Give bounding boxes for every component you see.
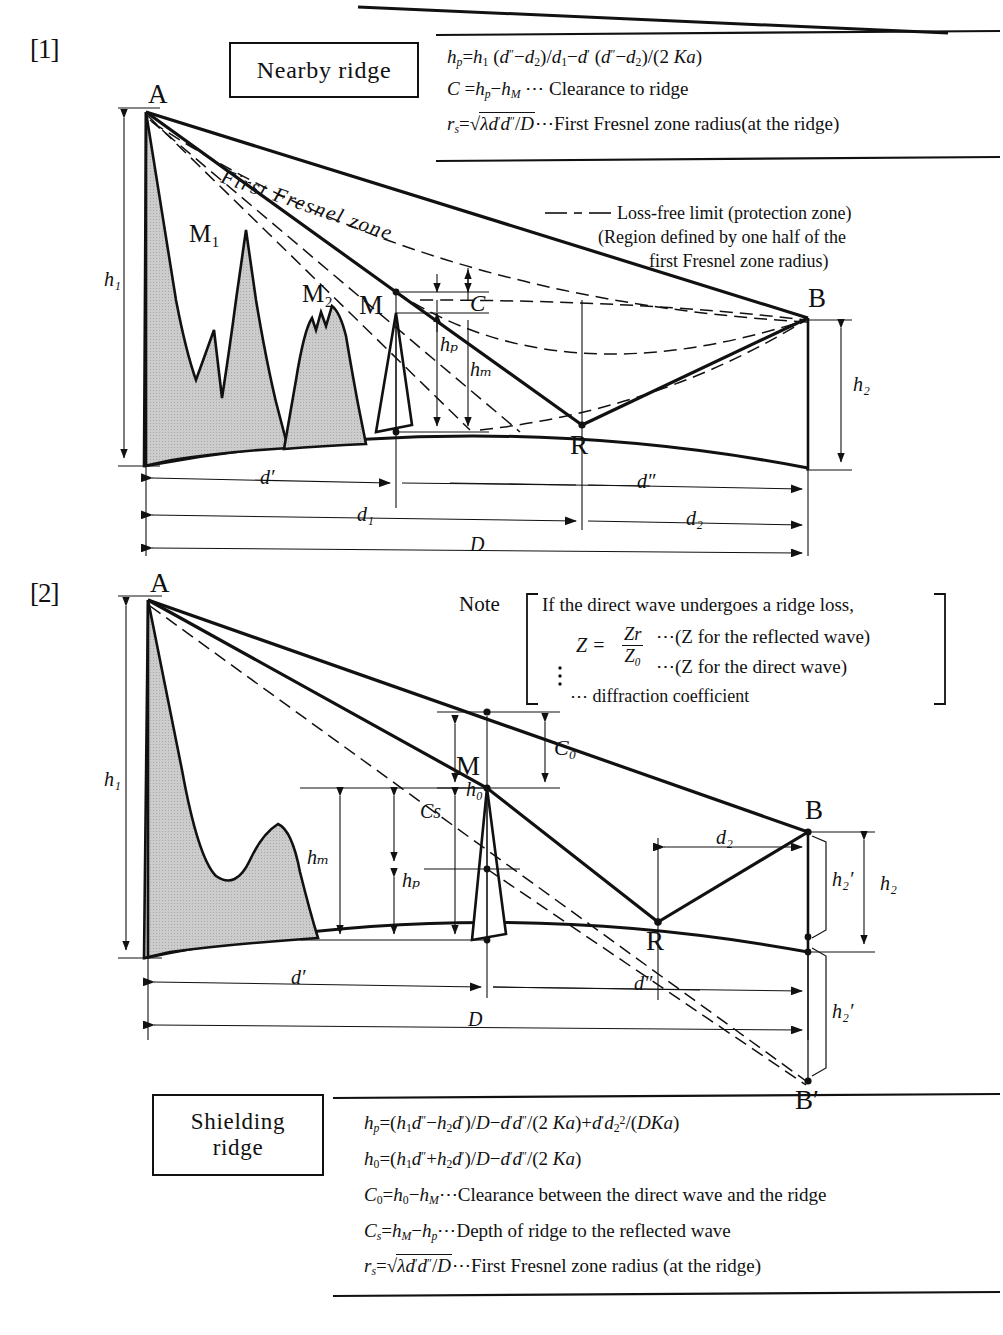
formula-1-3: rs=√λd′d″/D⋯First Fresnel zone radius(at… [447,112,839,136]
section-2-box-label-line1: Shielding [191,1109,285,1135]
construction-lines-2 [300,712,560,940]
formula-2-4: Cs=hM−hp⋯Depth of ridge to the reflected… [364,1220,731,1243]
note-line1: If the direct wave undergoes a ridge los… [542,594,854,616]
dim-ddprime-1 [450,483,802,489]
label-Cs-2: Cs [420,800,441,823]
label-hM-1: hₘ [470,358,492,381]
note-Z-lhs: Z = [576,634,606,656]
formula-2-5: rs=√λd′d″/D⋯First Fresnel zone radius (a… [364,1254,761,1278]
ridge-m-1 [376,313,412,432]
label-A-1: A [148,79,168,110]
section-2-box-label: Shielding ridge [152,1094,324,1176]
label-h0-2: h₀ [466,778,483,801]
note-label: Note [459,592,500,616]
note-fraction-numerator: Zr [622,624,643,646]
section-2-box-label-line2: ridge [213,1135,264,1161]
label-dprime-1: d′ [260,466,274,489]
formula-2-3: C0=h0−hM⋯Clearance between the direct wa… [364,1184,826,1207]
label-h1-2: h₁ [104,768,121,791]
note-fraction: Zr Z₀ [622,624,643,667]
label-D-2: D [468,1008,482,1031]
legend-1-line1: Loss-free limit (protection zone) [617,203,851,224]
rule-bottom-2 [333,1292,1000,1296]
section-1-diagram [118,31,1000,556]
ray-reflected-rb-1 [582,318,808,425]
label-C0-2: C₀ [554,735,576,760]
note-line2-den-desc: ⋯(Z for the direct wave) [656,656,847,678]
label-h2prime-upper: h₂′ [832,868,853,891]
formula-2-2: h0=(h1d″+h2d′)/D−d′d″/(2 Ka) [364,1148,581,1171]
label-dprime-2: d′ [291,966,305,989]
label-Bprime-2: B′ [795,1085,819,1116]
label-M-1: M [359,290,383,321]
terrain-m2 [284,306,366,449]
note-Z-equals: Z = [576,634,606,657]
label-ddprime-1: d″ [637,470,655,493]
brace-h2prime-lower [812,948,826,1076]
label-D-1: D [470,533,484,556]
label-hp-2: hₚ [402,869,420,892]
formula-1-1: hp=h1 (d″−d2)/d1−d′ (d″−d2)/(2 Ka) [447,46,702,69]
label-B-1: B [808,283,826,314]
figure-page: [1] Nearby ridge hp=h1 (d″−d2)/d1−d′ (d″… [0,0,1003,1335]
legend-1-line3: first Fresnel zone radius) [649,251,828,272]
note-fraction-denominator: Z₀ [622,646,643,667]
note-vertical-dots [558,666,561,685]
label-ddprime-2: d″ [634,972,652,995]
label-h2prime-lower: h₂′ [832,1000,853,1023]
rule-bottom-1 [436,157,1000,161]
note-line3: ⋯ diffraction coefficient [570,686,749,707]
formula-1-2: C =hp−hM ⋯ Clearance to ridge [447,78,688,101]
note-line2-num-desc: ⋯(Z for the reflected wave) [656,626,870,648]
label-M2-1: M₂ [302,280,333,309]
label-hp-1: hₚ [440,333,458,356]
label-d1-1: d₁ [357,503,374,526]
section-1-box-label: Nearby ridge [229,42,419,98]
dim-h2-1 [806,320,852,470]
section-1-number: [1] [30,34,58,65]
label-d2-2: d₂ [716,826,733,849]
formula-2-1: hp=(h1d″−h2d′)/D−d′d″/(2 Ka)+d′d22/(DKa) [364,1112,679,1135]
ray-reflected-rb-2 [658,832,808,922]
label-C-1: C [470,291,485,317]
ridge-m-2 [472,788,506,940]
section-1-box-label-text: Nearby ridge [257,57,392,84]
label-R-1: R [570,430,588,461]
label-A-2: A [150,568,170,599]
label-R-2: R [646,926,664,957]
legend-1-line2: (Region defined by one half of the [598,227,846,248]
brace-h2prime-upper [812,836,826,938]
section-2-number: [2] [30,578,58,609]
label-h1-1: h₁ [104,268,121,291]
label-h2-1: h₂ [853,373,870,396]
label-h2-2: h₂ [880,872,897,895]
terrain-m1 [144,112,288,466]
label-d2-1: d₂ [686,507,703,530]
rule-top-2 [333,1094,1000,1098]
label-B-2: B [805,795,823,826]
label-M1-1: M₁ [189,220,220,249]
label-hM-2: hₘ [307,846,329,869]
terrain-2 [144,600,318,958]
